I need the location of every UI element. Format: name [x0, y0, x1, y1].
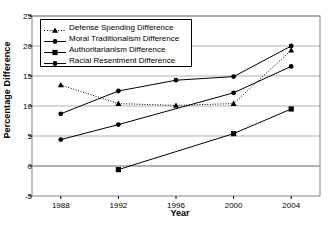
- data-point-2-1: [231, 131, 236, 136]
- legend-marker-triangle-icon: [43, 22, 67, 33]
- legend-label: Authoritarianism Difference: [67, 44, 165, 55]
- data-point-3-3: [231, 74, 236, 79]
- series-line-1: [61, 125, 119, 140]
- series-line-3: [234, 46, 292, 77]
- series-line-1: [118, 93, 233, 125]
- series-line-3: [176, 77, 234, 81]
- series-line-3: [118, 80, 176, 91]
- legend-entry-1: Moral Traditionalism Difference: [41, 33, 191, 44]
- data-point-3-4: [289, 44, 294, 49]
- legend-label: Moral Traditionalism Difference: [67, 33, 179, 44]
- data-point-1-3: [289, 64, 294, 69]
- chart-legend: Defense Spending DifferenceMoral Traditi…: [40, 19, 192, 67]
- series-line-2: [118, 134, 233, 170]
- data-point-2-0: [116, 167, 121, 172]
- data-point-3-2: [174, 78, 179, 83]
- series-line-0: [176, 104, 234, 106]
- data-point-2-2: [289, 106, 294, 111]
- data-point-0-0: [58, 82, 64, 87]
- legend-entry-3: Racial Resentment Difference: [41, 55, 191, 66]
- series-line-0: [234, 50, 292, 103]
- legend-marker-circle-icon: [43, 55, 67, 66]
- data-point-1-2: [231, 90, 236, 95]
- legend-label: Racial Resentment Difference: [67, 55, 175, 66]
- series-line-2: [234, 109, 292, 134]
- legend-label: Defense Spending Difference: [67, 22, 173, 33]
- data-point-3-1: [116, 89, 121, 94]
- legend-marker-square-icon: [43, 44, 67, 55]
- chart-figure: Percentage Difference 2520151050-5 19881…: [0, 0, 329, 227]
- legend-symbol-3: [53, 61, 58, 66]
- data-point-1-1: [116, 122, 121, 127]
- series-line-0: [118, 104, 176, 106]
- data-point-1-0: [58, 137, 63, 142]
- legend-marker-circle-icon: [43, 33, 67, 44]
- series-line-1: [234, 66, 292, 92]
- legend-entry-0: Defense Spending Difference: [41, 22, 191, 33]
- data-point-3-0: [58, 111, 63, 116]
- legend-entry-2: Authoritarianism Difference: [41, 44, 191, 55]
- data-point-0-1: [115, 101, 121, 106]
- series-line-3: [61, 91, 119, 114]
- x-axis-title: Year: [40, 208, 320, 218]
- x-axis-title-text: Year: [170, 208, 189, 218]
